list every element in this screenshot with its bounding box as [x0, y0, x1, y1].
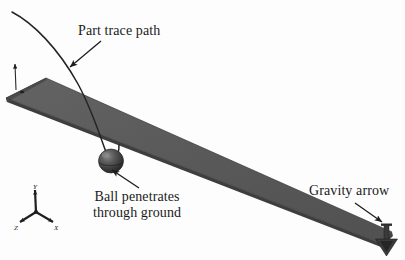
coordinate-triad [20, 190, 53, 222]
ball-sphere [99, 149, 124, 173]
ball-highlight [102, 152, 109, 158]
leader-ball [112, 170, 139, 188]
ground-plank [6, 78, 393, 247]
axis-label-y: Y [33, 183, 37, 191]
ball [99, 149, 124, 173]
axis-label-z: Z [14, 224, 18, 232]
origin-marker [15, 64, 24, 93]
plank-top-face [6, 78, 392, 243]
leader-part-trace [70, 41, 101, 67]
label-ball-line1: Ball penetrates [95, 189, 180, 204]
label-gravity-arrow: Gravity arrow [309, 183, 389, 198]
triad-axis-y [35, 190, 36, 212]
diagram-scene [0, 0, 405, 260]
label-part-trace-path: Part trace path [78, 23, 160, 38]
triad-axis-x [36, 212, 53, 222]
label-ball-penetrates: Ball penetrates through ground [93, 189, 181, 221]
figure-canvas: Part trace path Ball penetrates through … [0, 0, 405, 260]
label-ball-line2: through ground [93, 205, 181, 221]
axis-label-x: X [54, 224, 58, 232]
plank-side-face [6, 98, 381, 247]
triad-axis-z [20, 212, 36, 222]
